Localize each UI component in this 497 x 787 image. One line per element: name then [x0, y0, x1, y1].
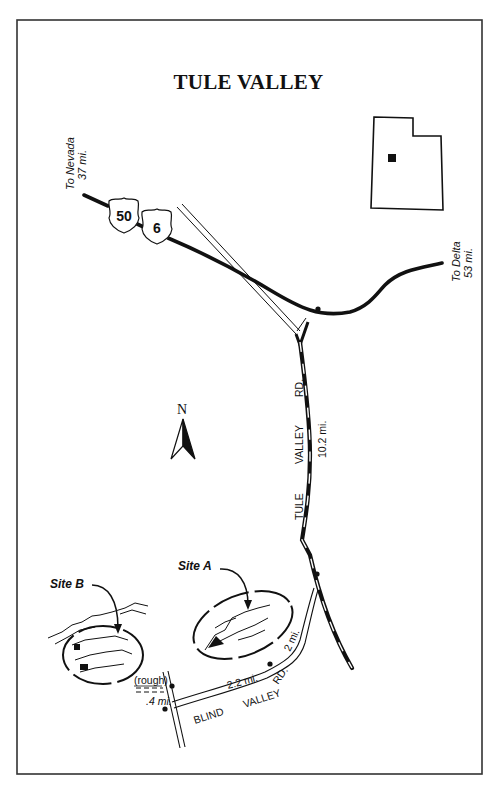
- shield-number: 50: [116, 208, 132, 224]
- rough-distance: .4 mi.: [146, 695, 172, 707]
- tule-valley-road-label: TULE VALLEY RD.: [293, 379, 305, 520]
- blind-valley-distance: 2.2 mi.: [225, 671, 259, 691]
- svg-text:To Delta: To Delta: [450, 241, 462, 282]
- site-b-label: Site B: [50, 577, 84, 591]
- site-a-label: Site A: [178, 559, 212, 573]
- shield-number: 6: [153, 220, 161, 236]
- locator-map: [371, 117, 443, 210]
- delta-label: To Delta 53 mi.: [450, 241, 474, 282]
- svg-text:53 mi.: 53 mi.: [462, 248, 474, 278]
- rough-label: (rough): [134, 674, 168, 686]
- svg-text:VALLEY: VALLEY: [293, 425, 305, 464]
- tule-valley-road: [300, 342, 352, 668]
- svg-text:37 mi.: 37 mi.: [76, 150, 88, 180]
- svg-text:10.2 mi.: 10.2 mi.: [316, 421, 328, 458]
- shield-50: 50: [109, 198, 139, 233]
- site-b: Site B: [48, 577, 148, 684]
- blind-valley-road-label: BLIND VALLEY: [192, 686, 282, 726]
- site-a: Site A: [178, 559, 302, 672]
- north-arrow-icon: [171, 419, 183, 459]
- svg-text:BLIND: BLIND: [192, 705, 226, 726]
- nevada-label: To Nevada 37 mi.: [64, 137, 88, 190]
- tule-valley-distance: 10.2 mi.: [316, 421, 328, 458]
- svg-text:RD.: RD.: [293, 379, 305, 397]
- svg-text:2.2 mi.: 2.2 mi.: [225, 671, 259, 691]
- svg-text:TULE: TULE: [293, 493, 305, 520]
- north-arrow: N: [171, 402, 195, 459]
- svg-text:N: N: [177, 402, 187, 417]
- svg-text:VALLEY: VALLEY: [241, 686, 282, 709]
- location-square-icon: [388, 154, 396, 162]
- utah-outline-icon: [371, 117, 443, 210]
- railroad: [177, 204, 300, 334]
- rough-spur: [136, 688, 164, 692]
- svg-text:To Nevada: To Nevada: [64, 137, 76, 190]
- tule-valley-map: 50 6 To Nevada 37 mi. To Delta 53 mi. TU…: [0, 0, 497, 787]
- blind-valley-road: [172, 588, 318, 708]
